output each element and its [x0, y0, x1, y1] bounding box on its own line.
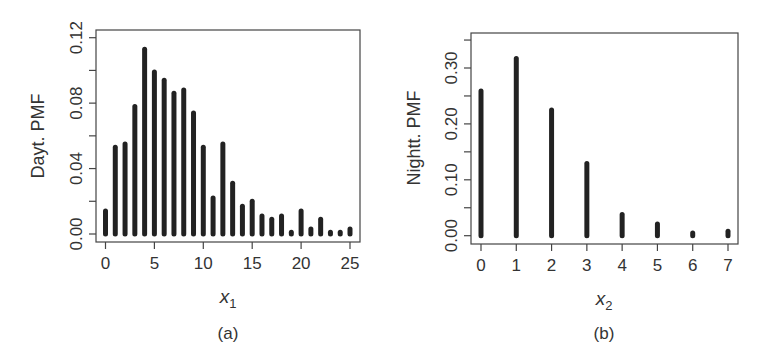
y-tick-label: 0.08	[67, 87, 86, 120]
x-axis-ticks: 0510152025	[101, 242, 360, 273]
y-tick-label: 0.30	[442, 51, 461, 84]
y-tick-label: 0.04	[67, 152, 86, 185]
figure: 0.000.040.080.12 0510152025 Dayt. PMF x1…	[0, 0, 763, 364]
y-tick-label: 0.00	[442, 219, 461, 252]
panel-label: (b)	[594, 324, 615, 343]
x-tick-label: 25	[341, 254, 360, 273]
chart-panel-a: 0.000.040.080.12 0510152025 Dayt. PMF x1…	[28, 21, 360, 343]
x-tick-label: 5	[653, 256, 662, 275]
y-axis-ticks: 0.000.040.080.12	[67, 21, 96, 250]
panel-label: (a)	[218, 324, 239, 343]
y-tick-label: 0.00	[67, 217, 86, 250]
y-axis-title: Nightt. PMF	[404, 90, 424, 185]
x-tick-label: 5	[150, 254, 159, 273]
x-tick-label: 20	[292, 254, 311, 273]
chart-panel-b: 0.000.100.200.30 01234567 Nightt. PMF x2…	[404, 33, 738, 343]
x-tick-label: 15	[243, 254, 262, 273]
y-tick-label: 0.10	[442, 163, 461, 196]
y-tick-label: 0.20	[442, 107, 461, 140]
plot-frame	[471, 33, 738, 244]
x-tick-label: 1	[512, 256, 521, 275]
x-axis-title: x1	[219, 286, 237, 311]
bars	[481, 58, 728, 235]
x-tick-label: 0	[476, 256, 485, 275]
x-axis-ticks: 01234567	[476, 244, 732, 275]
x-tick-label: 3	[582, 256, 591, 275]
x-tick-label: 6	[688, 256, 697, 275]
y-axis-title: Dayt. PMF	[28, 93, 48, 178]
x-axis-title: x2	[595, 288, 613, 313]
x-tick-label: 10	[194, 254, 213, 273]
y-tick-label: 0.12	[67, 21, 86, 54]
x-tick-label: 2	[547, 256, 556, 275]
y-axis-ticks: 0.000.100.200.30	[442, 40, 471, 252]
x-tick-label: 4	[617, 256, 626, 275]
x-tick-label: 0	[101, 254, 110, 273]
bars	[106, 49, 351, 234]
x-tick-label: 7	[723, 256, 732, 275]
